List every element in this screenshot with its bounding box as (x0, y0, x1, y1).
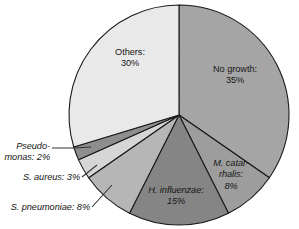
slice-label-no-growth-line2: 35% (198, 75, 272, 86)
slice-label-pseudomonas-line1: Pseudo- (0, 141, 50, 152)
slice-label-m-catarrhalis-line1: M. catar- (200, 158, 262, 169)
slice-label-others-line1: Others: (94, 47, 166, 58)
pie-chart-figure: No growth: 35% Others: 30% M. catar- rha… (0, 0, 299, 229)
slice-label-s-pneumoniae: S. pneumoniae: 8% (0, 202, 90, 213)
slice-label-m-catarrhalis-line2: rhalis: (200, 169, 262, 180)
slice-label-h-influenzae: H. influenzae: 15% (132, 185, 220, 208)
slice-label-pseudomonas: Pseudo- monas: 2% (0, 141, 50, 164)
slice-label-others-line2: 30% (94, 58, 166, 69)
slice-label-s-aureus-line1: S. aureus: 3% (0, 172, 80, 183)
slice-label-s-pneumoniae-line1: S. pneumoniae: 8% (0, 202, 90, 213)
slice-label-pseudomonas-line2: monas: 2% (0, 152, 50, 163)
slice-label-others: Others: 30% (94, 47, 166, 70)
slice-label-s-aureus: S. aureus: 3% (0, 172, 80, 183)
slice-label-no-growth-line1: No growth: (198, 64, 272, 75)
slice-label-h-influenzae-line1: H. influenzae: (132, 185, 220, 196)
slice-label-h-influenzae-line2: 15% (132, 196, 220, 207)
slice-label-no-growth: No growth: 35% (198, 64, 272, 87)
leader-line-pseudomonas (52, 147, 91, 148)
